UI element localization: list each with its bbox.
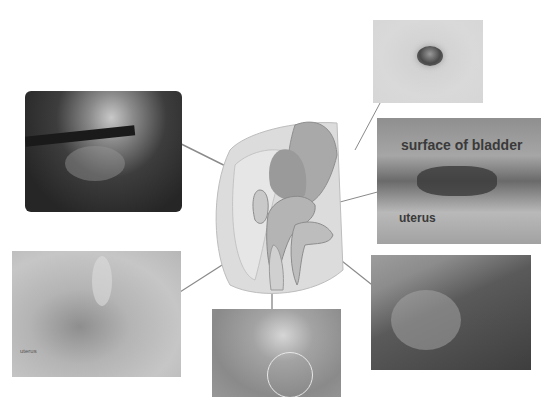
pelvis-anatomy-diagram	[205, 95, 347, 300]
surgical-site	[417, 166, 497, 196]
label-small: uterus	[20, 348, 37, 354]
panel-top-right-umbilicus-image	[373, 20, 483, 103]
panel-bottom-center-cervix-image	[212, 309, 341, 397]
instrument-shape	[25, 125, 135, 146]
panel-top-left-laparoscopic-image	[25, 91, 182, 212]
panel-right-middle-bladder-image: surface of bladder uterus	[377, 118, 541, 244]
panel-bottom-left-peritoneum-image: uterus	[12, 251, 181, 377]
panel-bottom-right-rectum-image	[371, 255, 531, 370]
umbilicus-shape	[417, 46, 443, 66]
label-uterus: uterus	[399, 211, 436, 225]
tissue-mass	[391, 290, 461, 350]
highlight-circle	[267, 352, 313, 397]
tissue-fold	[92, 256, 112, 306]
tissue-highlight	[65, 146, 125, 181]
label-surface-of-bladder: surface of bladder	[401, 137, 522, 153]
